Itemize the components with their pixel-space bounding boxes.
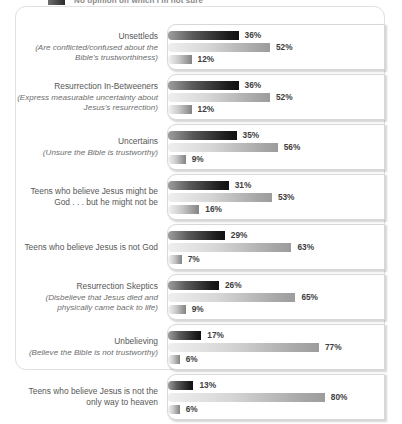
bar-panel: 13%80%6% [167,374,385,420]
category-title: Teens who believe Jesus might be God . .… [15,186,158,208]
bar-line: 9% [168,155,384,164]
category-subtitle: (Disbelieve that Jesus died and physical… [15,293,158,314]
bar-value-label: 16% [205,204,222,214]
bar-line: 80% [168,393,384,402]
chart-row: Resurrection In-Betweeners(Express measu… [15,74,385,120]
chart-row: Uncertains(Unsure the Bible is trustwort… [15,124,385,170]
bar-series-3 [168,155,186,164]
category-label-block: Unbelieving(Believe the Bible is not tru… [15,324,167,370]
bar-value-label: 7% [188,254,200,264]
bar-series-3 [168,255,182,264]
bar-panel: 17%77%6% [167,324,385,370]
bar-series-1 [168,81,239,90]
bar-line: 36% [168,81,384,90]
bar-value-label: 29% [231,230,248,240]
bar-series-3 [168,55,192,64]
legend-swatch-dark-icon [48,0,65,5]
bar-panel: 36%52%12% [167,24,385,70]
bar-value-label: 36% [245,80,262,90]
bar-value-label: 36% [245,30,262,40]
category-label-block: Teens who believe Jesus is not the only … [15,374,167,420]
bar-value-label: 31% [235,180,252,190]
bar-line: 65% [168,293,384,302]
bar-line: 12% [168,55,384,64]
category-label-block: Resurrection Skeptics(Disbelieve that Je… [15,274,167,320]
bar-panel: 36%52%12% [167,74,385,120]
category-subtitle: (Are conflicted/confused about the Bible… [15,43,158,64]
bar-value-label: 77% [325,342,342,352]
bar-panel: 31%53%16% [167,174,385,220]
bar-value-label: 17% [207,330,224,340]
bar-series-2 [168,193,272,202]
bar-line: 52% [168,43,384,52]
category-label-block: Teens who believe Jesus might be God . .… [15,174,167,220]
legend-label: No opinion on which I'm not sure [74,0,203,5]
bar-line: 77% [168,343,384,352]
bar-series-2 [168,343,319,352]
bar-series-3 [168,205,199,214]
category-title: Resurrection In-Betweeners [15,81,158,92]
bar-line: 26% [168,281,384,290]
bar-panel: 26%65%9% [167,274,385,320]
bar-value-label: 6% [186,354,198,364]
bar-series-3 [168,405,180,414]
bar-value-label: 63% [297,242,314,252]
category-label-block: Unsettleds(Are conflicted/confused about… [15,24,167,70]
bar-series-1 [168,31,239,40]
category-label-block: Resurrection In-Betweeners(Express measu… [15,74,167,120]
bar-value-label: 12% [198,54,215,64]
bar-line: 7% [168,255,384,264]
chart-row: Resurrection Skeptics(Disbelieve that Je… [15,274,385,320]
bar-value-label: 9% [192,154,204,164]
bar-series-1 [168,131,237,140]
bar-line: 56% [168,143,384,152]
category-title: Teens who believe Jesus is not God [15,242,158,253]
bar-series-2 [168,143,278,152]
bar-line: 35% [168,131,384,140]
chart-row: Unsettleds(Are conflicted/confused about… [15,24,385,70]
bar-value-label: 12% [198,104,215,114]
bar-series-3 [168,355,180,364]
chart-rows: Unsettleds(Are conflicted/confused about… [15,24,385,424]
bar-series-1 [168,231,225,240]
bar-value-label: 6% [186,404,198,414]
bar-series-2 [168,43,270,52]
category-subtitle: (Unsure the Bible is trustworthy) [15,148,158,158]
bar-value-label: 26% [225,280,242,290]
category-subtitle: (Express measurable uncertainty about Je… [15,93,158,114]
bar-line: 36% [168,31,384,40]
chart-row: Teens who believe Jesus might be God . .… [15,174,385,220]
category-title: Resurrection Skeptics [15,281,158,292]
category-label-block: Uncertains(Unsure the Bible is trustwort… [15,124,167,170]
bar-line: 52% [168,93,384,102]
chart-row: Teens who believe Jesus is not God29%63%… [15,224,385,270]
bar-series-1 [168,281,219,290]
bar-value-label: 13% [199,380,216,390]
bar-line: 12% [168,105,384,114]
bar-panel: 29%63%7% [167,224,385,270]
bar-panel: 35%56%9% [167,124,385,170]
category-title: Uncertains [15,136,158,147]
bar-line: 16% [168,205,384,214]
category-label-block: Teens who believe Jesus is not God [15,224,167,270]
bar-value-label: 53% [278,192,295,202]
bar-series-2 [168,293,295,302]
bar-series-2 [168,243,291,252]
bar-series-3 [168,105,192,114]
bar-line: 9% [168,305,384,314]
bar-line: 53% [168,193,384,202]
bar-value-label: 52% [276,42,293,52]
bar-value-label: 65% [301,292,318,302]
category-title: Unsettleds [15,31,158,42]
bar-value-label: 56% [284,142,301,152]
bar-line: 13% [168,381,384,390]
bar-series-1 [168,331,201,340]
bar-series-2 [168,93,270,102]
bar-series-2 [168,393,325,402]
bar-line: 6% [168,355,384,364]
bar-value-label: 52% [276,92,293,102]
category-title: Teens who believe Jesus is not the only … [15,386,158,408]
bar-series-1 [168,181,229,190]
bar-line: 6% [168,405,384,414]
bar-line: 31% [168,181,384,190]
